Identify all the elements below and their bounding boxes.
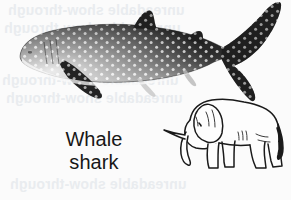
figure-canvas: unreadable show-through unreadable show-… bbox=[0, 0, 291, 200]
elephant-illustration bbox=[152, 88, 291, 173]
figure-caption: Whale shark bbox=[40, 128, 148, 174]
elephant-tusk bbox=[164, 130, 185, 139]
shark-eye bbox=[28, 51, 32, 54]
showthrough-line-5: unreadable show-through bbox=[10, 176, 187, 192]
elephant-hind-leg-near bbox=[250, 142, 266, 168]
caption-line-2: shark bbox=[40, 151, 148, 174]
elephant-front-leg-near bbox=[207, 143, 219, 168]
caption-line-1: Whale bbox=[40, 128, 148, 151]
